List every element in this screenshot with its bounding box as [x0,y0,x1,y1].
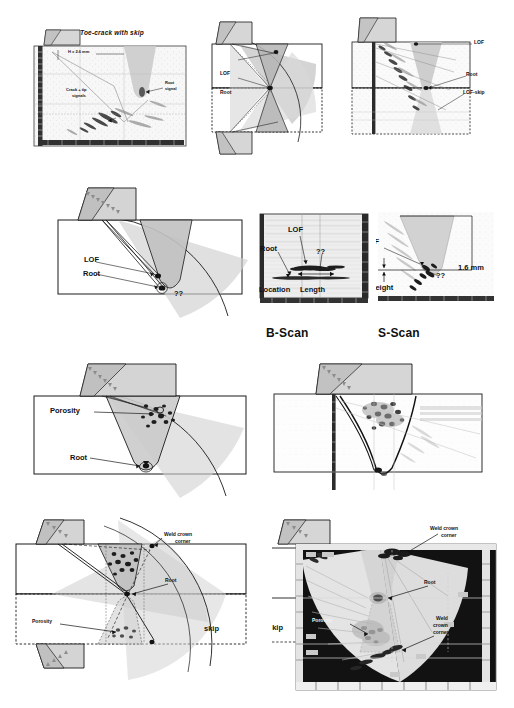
panel-row1-toe-crack-scan: Toe-crack with skip H = 2.6 mm Root sign… [28,26,192,154]
root-signal-label-line1: Root [165,81,174,85]
unknown-label-sscan: ?? [436,272,445,280]
lof-label-row1b: LOF [220,71,230,76]
panel-row1-lof-skip-scan: LOF Root LOF-skip [346,14,506,162]
lof-label-row1c: LOF [474,40,484,45]
panel-row4-porosity-skip-s-scan: Weld crown corner Root Porosity Weld cro… [272,512,512,702]
panel-row3-porosity-schematic: Porosity Root [30,362,272,502]
root-label-row4b: Root [424,580,435,585]
porosity-label-row4b: Porosity [312,618,332,623]
porosity-label-row4a: Porosity [32,619,52,624]
measurement-1-6-mm: 1.6 mm [458,264,484,272]
figure-root: Toe-crack with skip H = 2.6 mm Root sign… [0,0,514,708]
root-label-row2a: Root [83,270,100,278]
crack-tip-signals-label-line2: signals [72,94,86,98]
skip-label-row4b: skip [272,624,283,632]
panel-title-toe-crack: Toe-crack with skip [80,30,144,37]
unknown-label-bscan: ?? [316,248,325,256]
lof-label-bscan: LOF [288,226,303,234]
root-label-row1c: Root [466,72,477,77]
porosity-label-row3a: Porosity [50,407,80,415]
weld-crown-corner-label-row4a-line1: Weld crown [164,532,192,537]
root-signal-label-line2: signal [165,87,177,91]
panel-row2-lof-root-schematic: LOF Root ?? [52,184,272,324]
panel-row3-porosity-s-scan [270,362,510,502]
crack-tip-signals-label-line1: Crack + tip [66,88,87,92]
lof-label-sscan: LOF [376,238,379,246]
caption-s-scan: S-Scan [378,326,420,340]
weld-crown-corner2-label-row4b-line3: corner [433,630,449,635]
panel-row1-skip-coverage-schematic: LOF Root [206,14,342,162]
weld-crown-corner-label-row4b-line1: Weld crown [430,526,458,531]
weld-crown-corner-label-row4b-line2: corner [441,533,457,538]
weld-crown-corner2-label-row4b-line2: crown [433,623,448,628]
panel-row2-s-scan: LOF Height 1.6 mm ?? [376,206,508,314]
panel-row2-b-scan: LOF Root ?? Location Length [258,212,374,312]
root-label-row1b: Root [220,90,231,95]
skip-label-row4a: skip [204,625,219,633]
length-axis-label: Length [300,286,325,294]
root-label-bscan: Root [260,245,277,253]
panel-row4-porosity-skip-schematic: Weld crown corner Root Porosity skip [12,512,274,694]
root-label-row4a: Root [165,578,176,583]
root-label-row3a: Root [70,454,87,462]
lof-label-row2a: LOF [84,256,99,264]
location-axis-label: Location [259,286,290,294]
caption-b-scan: B-Scan [266,326,309,340]
lof-skip-label-row1c: LOF-skip [463,90,485,95]
unknown-label-row2a: ?? [174,290,183,298]
dimension-label-h-ind: H = 2.6 mm [68,50,89,54]
height-axis-label: Height [376,284,393,292]
weld-crown-corner-label-row4a-line2: corner [175,539,191,544]
weld-crown-corner2-label-row4b-line1: Weld [436,616,448,621]
